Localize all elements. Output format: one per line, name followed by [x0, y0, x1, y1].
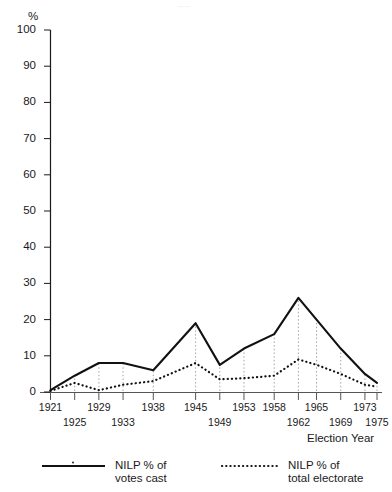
x-tick-label: 1933 — [106, 416, 140, 428]
x-tick-label: 1938 — [136, 401, 170, 413]
x-tick-label: 1949 — [203, 416, 237, 428]
y-tick-label: 70 — [6, 132, 36, 144]
x-tick-label: 1929 — [82, 401, 116, 413]
x-tick-label: 1965 — [300, 401, 334, 413]
y-tick-label: 10 — [6, 349, 36, 361]
x-tick-label: 1962 — [281, 416, 315, 428]
x-tick-label: 1921 — [34, 401, 68, 413]
x-axis-title: Election Year — [307, 432, 374, 444]
y-axis-unit-label: % — [28, 10, 38, 22]
y-tick-label: 40 — [6, 240, 36, 252]
y-tick-label: 60 — [6, 168, 36, 180]
x-tick-label: 1945 — [179, 401, 213, 413]
y-tick-label: 50 — [6, 204, 36, 216]
y-tick-group — [44, 30, 51, 392]
y-tick-label: 0 — [6, 385, 36, 397]
x-tick-label: 1973 — [348, 401, 382, 413]
y-tick-label: 100 — [6, 23, 36, 35]
y-tick-label: 80 — [6, 95, 36, 107]
legend-solid-dot-mark — [72, 462, 74, 464]
chart-container: ~~~ % 0102030405060708090100 19211925192… — [0, 0, 392, 492]
legend-label-votes-cast: NILP % of votes cast — [115, 459, 167, 485]
x-tick-label: 1975 — [360, 416, 392, 428]
x-tick-label: 1969 — [324, 416, 358, 428]
x-tick-label: 1925 — [58, 416, 92, 428]
x-tick-label: 1953 — [227, 401, 261, 413]
x-tick-group — [51, 392, 378, 400]
x-tick-label: 1958 — [257, 401, 291, 413]
y-tick-label: 30 — [6, 276, 36, 288]
legend-label-total-electorate: NILP % of total electorate — [288, 459, 363, 485]
series-line-votes-cast — [51, 298, 378, 390]
dropline-group — [75, 298, 377, 391]
y-tick-label: 20 — [6, 313, 36, 325]
y-tick-label: 90 — [6, 59, 36, 71]
series-line-total-electorate — [51, 359, 378, 390]
